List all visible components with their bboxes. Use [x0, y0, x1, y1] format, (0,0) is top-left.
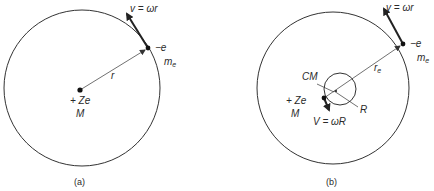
- nucleus-dot: [77, 87, 82, 92]
- velocity-arrow: [127, 14, 148, 48]
- velocity-label: v = ωr: [386, 2, 414, 13]
- radius-label: re: [374, 62, 381, 74]
- orbit-circle: [257, 12, 409, 164]
- bohr-atom-diagram: v = ωr −e me r + Ze M (a) v = ωr −e me r…: [0, 0, 434, 191]
- nucleus-charge-label: + Ze: [70, 95, 91, 106]
- electron-mass-label: me: [164, 56, 176, 68]
- electron-dot: [401, 42, 406, 47]
- velocity-arrow: [384, 9, 403, 44]
- orbit-circle: [4, 10, 160, 166]
- electron-charge-label: −e: [155, 42, 167, 53]
- panel-a: v = ωr −e me r + Ze M (a): [4, 3, 176, 187]
- electron-charge-label: −e: [410, 38, 422, 49]
- cm-dot: [335, 90, 337, 92]
- nucleus-velocity-label: V = ωR: [313, 116, 346, 127]
- cm-label: CM: [302, 71, 318, 82]
- radius-label: r: [111, 70, 115, 81]
- small-radius-label: R: [360, 104, 367, 115]
- nucleus-mass-label: M: [76, 108, 85, 119]
- electron-dot: [146, 46, 151, 51]
- panel-b: v = ωr −e me re CM R + Ze M V = ωR (b): [257, 2, 429, 187]
- nucleus-dot: [322, 96, 327, 101]
- caption-b: (b): [326, 177, 337, 187]
- cm-circle: [324, 73, 356, 105]
- radius-vector: [324, 46, 400, 98]
- cm-pointer: [317, 84, 334, 92]
- caption-a: (a): [74, 177, 85, 187]
- electron-mass-label: me: [417, 52, 429, 64]
- nucleus-mass-label: M: [291, 108, 300, 119]
- velocity-label: v = ωr: [130, 3, 158, 14]
- nucleus-charge-label: + Ze: [286, 95, 307, 106]
